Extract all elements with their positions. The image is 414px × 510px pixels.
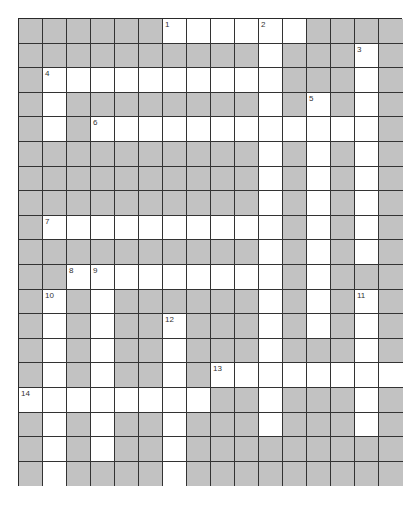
crossword-cell-open[interactable] bbox=[115, 265, 139, 290]
crossword-cell-open[interactable] bbox=[235, 216, 259, 241]
crossword-cell-open[interactable] bbox=[355, 216, 379, 241]
crossword-cell-open[interactable] bbox=[163, 68, 187, 93]
crossword-cell-open[interactable]: 12 bbox=[163, 314, 187, 339]
crossword-cell-open[interactable]: 11 bbox=[355, 290, 379, 315]
crossword-cell-open[interactable] bbox=[355, 339, 379, 364]
crossword-cell-open[interactable] bbox=[91, 290, 115, 315]
crossword-cell-open[interactable] bbox=[43, 437, 67, 462]
crossword-cell-open[interactable] bbox=[67, 216, 91, 241]
crossword-cell-open[interactable] bbox=[43, 413, 67, 438]
crossword-cell-open[interactable] bbox=[307, 142, 331, 167]
crossword-cell-open[interactable] bbox=[355, 93, 379, 118]
crossword-cell-open[interactable] bbox=[43, 363, 67, 388]
crossword-cell-open[interactable] bbox=[355, 388, 379, 413]
crossword-cell-open[interactable]: 2 bbox=[259, 19, 283, 44]
crossword-cell-open[interactable] bbox=[67, 388, 91, 413]
crossword-cell-open[interactable] bbox=[307, 117, 331, 142]
crossword-cell-open[interactable]: 10 bbox=[43, 290, 67, 315]
crossword-cell-open[interactable] bbox=[355, 142, 379, 167]
crossword-cell-open[interactable] bbox=[259, 68, 283, 93]
crossword-cell-open[interactable] bbox=[211, 68, 235, 93]
crossword-cell-open[interactable] bbox=[235, 265, 259, 290]
crossword-cell-open[interactable] bbox=[211, 117, 235, 142]
crossword-cell-open[interactable] bbox=[235, 19, 259, 44]
crossword-cell-open[interactable] bbox=[355, 240, 379, 265]
crossword-cell-open[interactable] bbox=[163, 339, 187, 364]
crossword-cell-open[interactable] bbox=[91, 216, 115, 241]
crossword-cell-open[interactable] bbox=[355, 314, 379, 339]
crossword-cell-open[interactable] bbox=[91, 339, 115, 364]
crossword-cell-open[interactable]: 1 bbox=[163, 19, 187, 44]
crossword-cell-open[interactable] bbox=[355, 363, 379, 388]
crossword-cell-open[interactable] bbox=[379, 363, 403, 388]
crossword-cell-open[interactable] bbox=[187, 68, 211, 93]
crossword-cell-open[interactable] bbox=[259, 191, 283, 216]
crossword-cell-open[interactable] bbox=[139, 265, 163, 290]
crossword-cell-open[interactable]: 6 bbox=[91, 117, 115, 142]
crossword-cell-open[interactable] bbox=[43, 93, 67, 118]
crossword-cell-open[interactable] bbox=[139, 388, 163, 413]
crossword-cell-open[interactable] bbox=[187, 388, 211, 413]
crossword-cell-open[interactable] bbox=[259, 93, 283, 118]
crossword-cell-open[interactable] bbox=[283, 363, 307, 388]
crossword-cell-open[interactable] bbox=[163, 388, 187, 413]
crossword-cell-open[interactable] bbox=[91, 68, 115, 93]
crossword-cell-open[interactable] bbox=[163, 117, 187, 142]
crossword-cell-open[interactable] bbox=[355, 191, 379, 216]
crossword-cell-open[interactable] bbox=[211, 265, 235, 290]
crossword-cell-open[interactable] bbox=[331, 117, 355, 142]
crossword-cell-open[interactable]: 5 bbox=[307, 93, 331, 118]
crossword-cell-open[interactable] bbox=[43, 388, 67, 413]
crossword-cell-open[interactable] bbox=[307, 191, 331, 216]
crossword-cell-open[interactable] bbox=[259, 240, 283, 265]
crossword-cell-open[interactable] bbox=[355, 413, 379, 438]
crossword-cell-open[interactable] bbox=[91, 413, 115, 438]
crossword-cell-open[interactable] bbox=[115, 388, 139, 413]
crossword-cell-open[interactable] bbox=[259, 290, 283, 315]
crossword-cell-open[interactable] bbox=[187, 216, 211, 241]
crossword-cell-open[interactable] bbox=[139, 216, 163, 241]
crossword-cell-open[interactable] bbox=[259, 216, 283, 241]
crossword-cell-open[interactable] bbox=[187, 19, 211, 44]
crossword-cell-open[interactable] bbox=[283, 19, 307, 44]
crossword-cell-open[interactable] bbox=[307, 265, 331, 290]
crossword-cell-open[interactable]: 3 bbox=[355, 44, 379, 69]
crossword-cell-open[interactable] bbox=[307, 363, 331, 388]
crossword-cell-open[interactable] bbox=[139, 68, 163, 93]
crossword-cell-open[interactable]: 14 bbox=[19, 388, 43, 413]
crossword-cell-open[interactable] bbox=[187, 117, 211, 142]
crossword-cell-open[interactable] bbox=[259, 314, 283, 339]
crossword-cell-open[interactable] bbox=[115, 216, 139, 241]
crossword-cell-open[interactable]: 8 bbox=[67, 265, 91, 290]
crossword-cell-open[interactable] bbox=[115, 68, 139, 93]
crossword-cell-open[interactable] bbox=[43, 462, 67, 487]
crossword-cell-open[interactable]: 13 bbox=[211, 363, 235, 388]
crossword-cell-open[interactable] bbox=[43, 339, 67, 364]
crossword-cell-open[interactable] bbox=[163, 265, 187, 290]
crossword-cell-open[interactable] bbox=[307, 167, 331, 192]
crossword-cell-open[interactable]: 7 bbox=[43, 216, 67, 241]
crossword-cell-open[interactable] bbox=[235, 363, 259, 388]
crossword-cell-open[interactable] bbox=[163, 363, 187, 388]
crossword-cell-open[interactable] bbox=[259, 265, 283, 290]
crossword-cell-open[interactable] bbox=[259, 142, 283, 167]
crossword-cell-open[interactable] bbox=[235, 68, 259, 93]
crossword-cell-open[interactable] bbox=[259, 388, 283, 413]
crossword-cell-open[interactable] bbox=[211, 19, 235, 44]
crossword-cell-open[interactable] bbox=[91, 363, 115, 388]
crossword-cell-open[interactable] bbox=[307, 314, 331, 339]
crossword-cell-open[interactable] bbox=[91, 314, 115, 339]
crossword-cell-open[interactable] bbox=[163, 437, 187, 462]
crossword-cell-open[interactable] bbox=[283, 117, 307, 142]
crossword-cell-open[interactable]: 4 bbox=[43, 68, 67, 93]
crossword-cell-open[interactable] bbox=[163, 413, 187, 438]
crossword-cell-open[interactable] bbox=[187, 265, 211, 290]
crossword-cell-open[interactable] bbox=[259, 339, 283, 364]
crossword-cell-open[interactable] bbox=[355, 117, 379, 142]
crossword-cell-open[interactable] bbox=[67, 68, 91, 93]
crossword-cell-open[interactable] bbox=[259, 44, 283, 69]
crossword-cell-open[interactable] bbox=[235, 117, 259, 142]
crossword-cell-open[interactable] bbox=[307, 290, 331, 315]
crossword-cell-open[interactable] bbox=[259, 167, 283, 192]
crossword-cell-open[interactable] bbox=[43, 314, 67, 339]
